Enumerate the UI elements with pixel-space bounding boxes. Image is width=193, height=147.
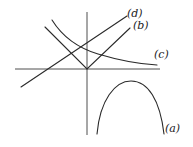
label-c: (c) — [154, 49, 169, 60]
curve-d-line — [21, 16, 127, 87]
curve-a-parabola — [97, 81, 164, 134]
label-b: (b) — [133, 20, 149, 31]
label-d: (d) — [127, 8, 143, 19]
label-a: (a) — [165, 123, 180, 134]
